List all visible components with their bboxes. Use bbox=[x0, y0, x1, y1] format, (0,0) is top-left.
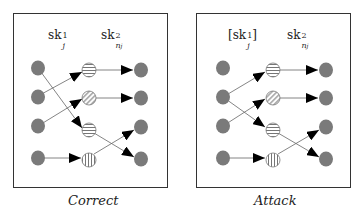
node-right-4 bbox=[134, 152, 148, 167]
left-nodes bbox=[216, 61, 230, 166]
node-mid-1-hstripe bbox=[266, 63, 280, 77]
node-left-1 bbox=[216, 61, 230, 76]
node-mid-4-vstripe bbox=[82, 153, 96, 167]
left-nodes bbox=[31, 61, 45, 166]
node-mid-2-dstripe bbox=[82, 91, 96, 105]
node-right-3 bbox=[319, 120, 333, 135]
caption-attack: Attack bbox=[254, 193, 297, 208]
node-right-2 bbox=[319, 91, 333, 106]
label-sk1-attack: [sk1j] bbox=[228, 28, 257, 42]
node-right-1 bbox=[134, 63, 148, 78]
node-left-4 bbox=[216, 151, 230, 166]
label-sk2-attack: sk2nj bbox=[287, 28, 314, 42]
node-right-3 bbox=[134, 120, 148, 135]
node-right-2 bbox=[134, 91, 148, 106]
node-mid-4-vstripe bbox=[266, 153, 280, 167]
panel-attack bbox=[197, 14, 351, 188]
label-sk2-correct: sk2nj bbox=[101, 28, 128, 42]
node-mid-1-hstripe bbox=[82, 63, 96, 77]
caption-correct: Correct bbox=[68, 193, 118, 208]
node-left-3 bbox=[31, 119, 45, 134]
node-left-2 bbox=[31, 90, 45, 105]
node-right-1 bbox=[319, 63, 333, 78]
edges-left-to-middle bbox=[223, 72, 265, 158]
node-mid-3-hstripe bbox=[266, 123, 280, 137]
panel-correct bbox=[14, 14, 168, 188]
node-left-1 bbox=[31, 61, 45, 76]
node-left-4 bbox=[31, 151, 45, 166]
node-left-2 bbox=[216, 90, 230, 105]
node-right-4 bbox=[319, 152, 333, 167]
node-mid-2-dstripe bbox=[266, 91, 280, 105]
label-sk1-correct: sk1j bbox=[48, 28, 67, 42]
edges-middle-to-right bbox=[94, 70, 134, 157]
right-nodes bbox=[134, 63, 148, 167]
right-nodes bbox=[319, 63, 333, 167]
edges-middle-to-right bbox=[278, 70, 319, 157]
middle-nodes bbox=[266, 63, 280, 167]
node-mid-3-hstripe bbox=[82, 123, 96, 137]
node-left-3 bbox=[216, 119, 230, 134]
middle-nodes bbox=[82, 63, 96, 167]
edges-left-to-middle bbox=[38, 68, 82, 158]
